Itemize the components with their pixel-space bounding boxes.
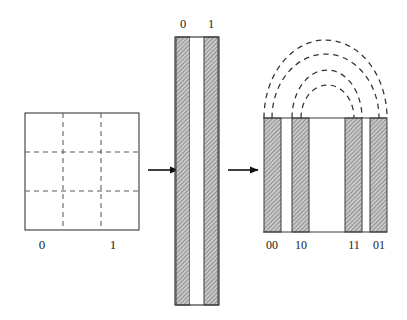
arc-4-inner xyxy=(301,85,354,118)
code-label-00: 00 xyxy=(266,238,278,252)
square-outline xyxy=(25,113,139,230)
code-label-11: 11 xyxy=(348,238,360,252)
figure-root: 0 1 0 1 xyxy=(0,0,407,320)
square-panel-group: 0 1 xyxy=(25,113,139,252)
column-panel-group: 0 1 xyxy=(175,17,219,305)
column-label-1: 1 xyxy=(208,17,214,31)
arc-2 xyxy=(272,54,379,118)
column-gap xyxy=(190,37,204,305)
square-label-1: 1 xyxy=(110,237,117,252)
code-panel-background xyxy=(263,118,387,232)
arc-3 xyxy=(292,70,362,118)
square-label-0: 0 xyxy=(39,237,46,252)
code-band-00 xyxy=(264,118,281,232)
code-band-11 xyxy=(345,118,362,232)
code-label-01: 01 xyxy=(373,238,385,252)
column-label-0: 0 xyxy=(180,17,186,31)
code-panel-group: 00 10 11 01 xyxy=(263,118,387,252)
column-band-1 xyxy=(204,37,218,305)
code-band-10 xyxy=(292,118,309,232)
column-band-0 xyxy=(176,37,190,305)
diagram-canvas: 0 1 0 1 xyxy=(0,0,407,320)
arc-group xyxy=(264,40,387,118)
code-label-10: 10 xyxy=(295,238,307,252)
code-band-01 xyxy=(370,118,387,232)
